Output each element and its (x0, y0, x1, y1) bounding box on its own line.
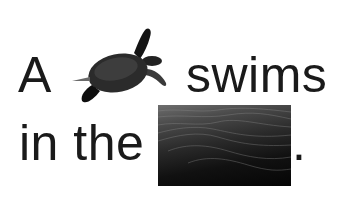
word-in-the: in the (19, 118, 144, 168)
sea-turtle-icon (68, 25, 170, 105)
sea-turtle-image (68, 25, 170, 105)
word-swims: swims (186, 50, 327, 100)
word-period: . (292, 118, 306, 168)
ocean-waves-icon (158, 105, 291, 186)
word-a: A (18, 50, 52, 100)
ocean-water-image (158, 105, 291, 186)
